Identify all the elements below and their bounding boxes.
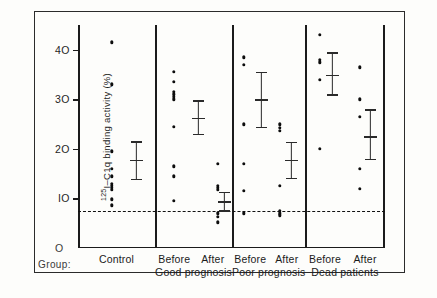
data-point: [358, 65, 361, 68]
mean-marker: [285, 160, 298, 161]
data-point: [172, 199, 175, 202]
data-point: [358, 115, 361, 118]
error-bar-cap-top: [193, 100, 204, 101]
data-point: [172, 70, 175, 73]
y-axis-zero-label: O: [55, 242, 63, 254]
category-sublabel-before: Before: [232, 253, 269, 266]
data-point: [172, 174, 175, 177]
error-bar-line: [331, 52, 332, 94]
data-point: [242, 212, 245, 215]
mean-marker: [130, 160, 143, 161]
data-point: [216, 188, 219, 191]
data-point: [110, 41, 113, 44]
mean-error-bar: [326, 52, 339, 94]
data-point: [110, 198, 113, 201]
data-point: [242, 189, 245, 192]
y-tick-label: IO: [58, 192, 70, 204]
category-sublabel-after: After: [194, 253, 233, 266]
category-subcolumn-labels: BeforeAfter: [155, 253, 232, 266]
data-point: [318, 60, 321, 63]
panel-separator-2: [232, 25, 234, 248]
data-point: [358, 187, 361, 190]
mean-marker: [326, 75, 339, 76]
figure-panel: 125I–C1q binding activity (%) IO2O3O4O O…: [0, 0, 437, 298]
data-point: [278, 122, 281, 125]
y-tick-mark: [73, 50, 78, 51]
category-sublabel-after: After: [269, 253, 306, 266]
y-tick-label: 3O: [55, 93, 70, 105]
category-label-group-2: BeforeAfterGood prognosis: [155, 253, 232, 279]
category-sublabel-before: Before: [155, 253, 194, 266]
error-bar-cap-bottom: [219, 210, 230, 211]
mean-error-bar: [130, 141, 143, 178]
data-point: [110, 150, 113, 153]
mean-marker: [255, 99, 268, 100]
data-point: [318, 33, 321, 36]
mean-marker: [364, 136, 377, 137]
data-point: [110, 174, 113, 177]
error-bar-cap-top: [256, 72, 267, 73]
y-axis: [78, 25, 80, 248]
data-point: [278, 129, 281, 132]
category-name: Dead patients: [305, 266, 385, 279]
category-subcolumn-labels: BeforeAfter: [305, 253, 385, 266]
mean-error-bar: [285, 142, 298, 178]
y-tick-label: 2O: [55, 143, 70, 155]
data-point: [216, 221, 219, 224]
data-point: [172, 98, 175, 101]
data-point: [278, 214, 281, 217]
data-point: [242, 162, 245, 165]
mean-error-bar: [255, 72, 268, 127]
data-point: [110, 167, 113, 170]
y-tick-label: 4O: [55, 44, 70, 56]
data-point: [110, 188, 113, 191]
category-sublabel-after: After: [345, 253, 385, 266]
error-bar-cap-bottom: [131, 179, 142, 180]
y-tick-mark: [73, 198, 78, 199]
y-axis-title-superscript: 125: [100, 188, 107, 201]
mean-error-bar: [192, 100, 205, 134]
data-point: [278, 184, 281, 187]
error-bar-cap-top: [327, 52, 338, 53]
data-point: [172, 125, 175, 128]
plot-area: 125I–C1q binding activity (%) IO2O3O4O: [78, 25, 385, 248]
data-point: [110, 83, 113, 86]
data-point: [242, 122, 245, 125]
data-point: [216, 215, 219, 218]
category-name: Good prognosis: [155, 266, 232, 279]
plot-right-edge: [383, 25, 385, 248]
mean-error-bar: [364, 109, 377, 159]
category-label-group-3: BeforeAfterPoor prognosis: [232, 253, 305, 279]
data-point: [318, 147, 321, 150]
error-bar-cap-top: [286, 142, 297, 143]
error-bar-cap-top: [219, 192, 230, 193]
category-subcolumn-labels: BeforeAfter: [232, 253, 305, 266]
error-bar-cap-bottom: [286, 178, 297, 179]
data-point: [358, 98, 361, 101]
category-name: Poor prognosis: [232, 266, 305, 279]
category-label-group-4: BeforeAfterDead patients: [305, 253, 385, 279]
error-bar-line: [369, 109, 370, 159]
data-point: [216, 162, 219, 165]
panel-separator-3: [305, 25, 307, 248]
error-bar-cap-top: [131, 141, 142, 142]
category-sublabel-before: Before: [305, 253, 345, 266]
panel-separator-1: [155, 25, 157, 248]
y-tick-mark: [73, 99, 78, 100]
error-bar-cap-bottom: [327, 94, 338, 95]
mean-marker: [192, 118, 205, 119]
group-axis-label: Group:: [38, 259, 71, 270]
error-bar-cap-top: [365, 109, 376, 110]
data-point: [242, 63, 245, 66]
mean-marker: [218, 201, 231, 202]
category-name: Control: [78, 253, 155, 266]
error-bar-cap-bottom: [256, 127, 267, 128]
mean-error-bar: [218, 192, 231, 210]
data-point: [242, 56, 245, 59]
data-point: [358, 167, 361, 170]
data-point: [172, 80, 175, 83]
error-bar-cap-bottom: [365, 159, 376, 160]
data-point: [318, 78, 321, 81]
category-label-group-1: Control: [78, 253, 155, 266]
y-tick-mark: [73, 149, 78, 150]
